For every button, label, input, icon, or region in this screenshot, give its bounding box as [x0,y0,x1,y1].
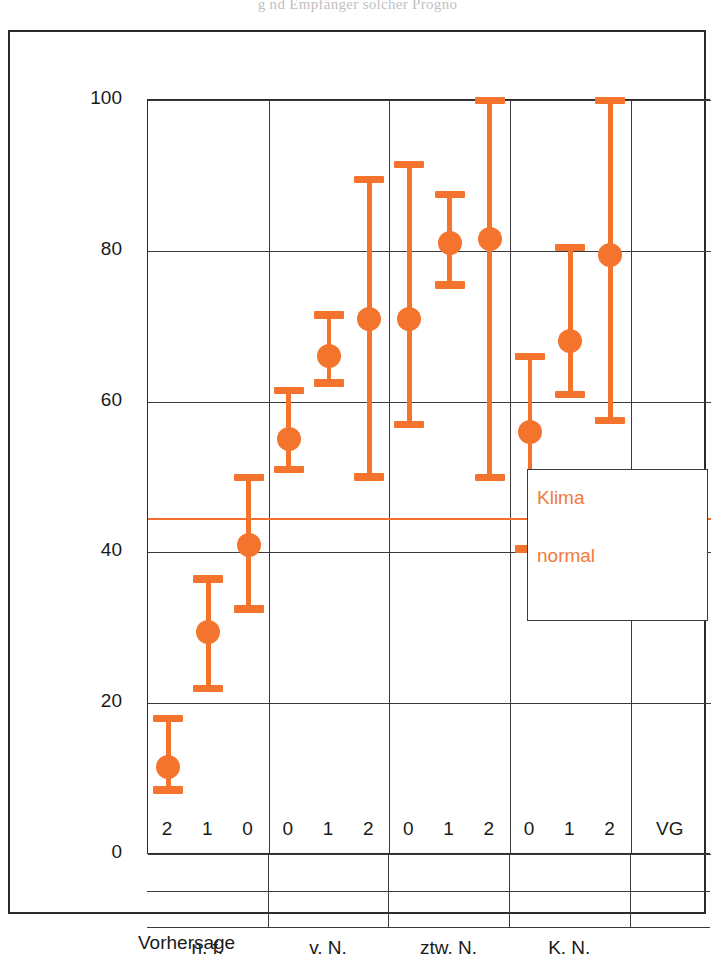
gridline-y-100 [148,100,711,101]
data-point-marker [196,620,220,644]
figure-frame: 020406080100 Niederschlagswahrscheinlich… [8,30,706,914]
legend-label-klima: Klima [537,487,585,509]
data-point-marker [156,755,180,779]
gridline-y-60 [148,402,711,403]
error-bar-stem [487,100,492,477]
error-bar-cap-lower [314,379,344,387]
data-point-marker [518,420,542,444]
x-sublabel-3-2: 2 [589,818,629,840]
data-point-marker [397,307,421,331]
x-sublabel-1-1: 1 [308,818,348,840]
x-sublabel-1-2: 2 [348,818,388,840]
y-tick-label-60: 60 [66,389,122,411]
error-bar-cap-upper [153,715,183,723]
x-sublabel-4-0: VG [650,818,690,840]
error-bar-cap-lower [555,391,585,399]
x-sublabel-1-0: 0 [268,818,308,840]
x-axis-separator-2 [388,854,389,928]
error-bar-cap-upper [234,474,264,482]
x-axis-category-table: 210012012012VG n. f.v. N.ztw. N.K. N. [147,853,710,927]
x-sublabel-3-0: 0 [509,818,549,840]
error-bar-cap-lower [435,281,465,289]
x-axis-separator-4 [630,854,631,928]
gridline-x-3 [510,100,511,854]
y-tick-label-80: 80 [66,238,122,260]
x-sublabel-2-2: 2 [469,818,509,840]
error-bar-cap-lower [595,417,625,425]
error-bar-cap-lower [274,466,304,474]
x-group-label-1: v. N. [268,937,388,958]
gridline-x-2 [389,100,390,854]
data-point-marker [598,243,622,267]
gridline-x-1 [269,100,270,854]
legend-label-normal: normal [537,545,595,567]
x-sublabel-2-0: 0 [388,818,428,840]
x-axis-label: Vorhersage [138,932,235,954]
error-bar-cap-upper [193,575,223,583]
y-tick-label-20: 20 [66,690,122,712]
error-bar-stem [568,247,573,394]
error-bar-cap-upper [354,176,384,184]
x-sublabel-0-1: 1 [187,818,227,840]
error-bar-cap-upper [435,191,465,199]
data-point-marker [438,231,462,255]
y-tick-label-40: 40 [66,539,122,561]
x-axis-separator-1 [268,854,269,928]
error-bar-cap-lower [394,421,424,429]
error-bar-cap-upper [555,244,585,252]
error-bar-stem [166,718,171,790]
data-point-marker [237,533,261,557]
error-bar-cap-lower [234,605,264,613]
error-bar-cap-upper [314,311,344,319]
y-tick-label-100: 100 [66,87,122,109]
x-sublabel-0-0: 2 [147,818,187,840]
error-bar-cap-upper [595,97,625,105]
gridline-y-80 [148,251,711,252]
x-axis-group-row: n. f.v. N.ztw. N.K. N. [147,891,710,928]
error-bar-cap-upper [394,161,424,169]
running-head: g nd Empfänger solcher Progno [0,0,715,14]
x-sublabel-3-1: 1 [549,818,589,840]
x-axis-separator-3 [509,854,510,928]
data-point-marker [317,344,341,368]
error-bar-cap-upper [475,97,505,105]
error-bar-cap-lower [153,786,183,794]
x-group-label-3: K. N. [509,937,629,958]
error-bar-cap-lower [475,474,505,482]
data-point-marker [357,307,381,331]
gridline-y-20 [148,703,711,704]
error-bar-cap-lower [354,473,384,481]
x-sublabel-0-2: 0 [228,818,268,840]
legend-box: Klima normal [527,469,708,621]
error-bar-cap-lower [193,685,223,693]
data-point-marker [558,329,582,353]
error-bar-cap-upper [274,387,304,395]
error-bar-cap-upper [515,353,545,361]
data-point-marker [277,427,301,451]
error-bar-stem [407,164,412,424]
x-sublabel-2-1: 1 [429,818,469,840]
y-tick-label-0: 0 [66,841,122,863]
data-point-marker [478,227,502,251]
x-group-label-2: ztw. N. [389,937,509,958]
